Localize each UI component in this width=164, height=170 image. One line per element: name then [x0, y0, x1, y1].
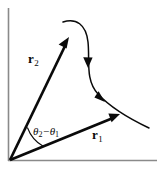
angle-label: θ2−θ1 [33, 126, 59, 139]
vector-label-r2: r2 [28, 52, 39, 68]
vector-r2-arrowhead [59, 37, 69, 48]
trajectory-group [63, 21, 149, 128]
trajectory-direction-arrow-2 [94, 91, 105, 102]
angle-label-theta1-subscript: 1 [55, 130, 59, 139]
angle-label-operator: − [42, 125, 49, 137]
vector-label-r1-subscript: 1 [98, 134, 103, 144]
vector-label-r2-symbol: r [28, 51, 34, 66]
vector-label-r1: r1 [92, 128, 103, 144]
axes-group [8, 8, 157, 161]
diagram-canvas [0, 0, 164, 170]
vector-r1-arrowhead [108, 114, 120, 123]
vector-r1 [10, 114, 120, 160]
trajectory-curve [63, 21, 149, 128]
vector-label-r1-symbol: r [92, 127, 98, 142]
vector-r2 [10, 37, 69, 160]
vector-label-r2-subscript: 2 [34, 58, 39, 68]
vector-diagram-figure: r2 r1 θ2−θ1 [0, 0, 164, 170]
trajectory-direction-arrow-1 [83, 57, 92, 68]
